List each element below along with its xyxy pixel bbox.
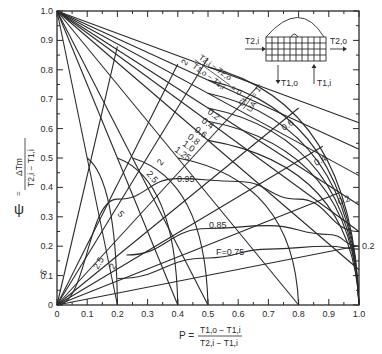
- x-tick-label: 0.4: [172, 309, 185, 319]
- y-axis-label: ψ = ΔTm T2,i − T1,i: [14, 138, 36, 217]
- cold-inlet-arrowhead: [312, 64, 317, 68]
- p-denominator: T2,i − T1,i: [200, 338, 238, 348]
- y-tick-label: 0.2: [40, 241, 53, 251]
- x-tick-label: 0: [54, 309, 59, 319]
- hot-inlet-label: T2,i: [245, 36, 259, 46]
- ct-label-0.2: 0.2: [362, 241, 375, 251]
- y-tick-label: 1.0: [40, 6, 53, 16]
- ct-label-0.4: 0.2: [336, 193, 351, 207]
- y-tick-label: 0.9: [40, 35, 53, 45]
- ct-ua-line: [57, 108, 299, 305]
- x-tick-label: 0.3: [141, 309, 154, 319]
- psi-symbol: ψ: [14, 201, 24, 217]
- psi-denominator: T2,i − T1,i: [26, 149, 36, 187]
- f-label-0.75: F=0.75: [216, 247, 244, 257]
- x-tick-label: 0.2: [111, 309, 124, 319]
- r-label-5: 5: [115, 209, 126, 219]
- p-numerator: T1,o − T1,i: [200, 325, 241, 335]
- curve-labels: 0.20.40.60.81.01.2522.55222.550.60.40.20…: [38, 58, 374, 277]
- x-axis-label: P = T1,o − T1,i T2,i − T1,i: [179, 325, 242, 348]
- x-tick-label: 0.6: [232, 309, 245, 319]
- y-tick-label: 0.5: [40, 153, 53, 163]
- f-label-0.85: 0.85: [209, 220, 227, 230]
- y-tick-label: 0.3: [40, 212, 53, 222]
- hot-outlet-label: T2,o: [330, 36, 347, 46]
- hot-inlet-arrowhead: [262, 47, 266, 52]
- cold-outlet-label: T1,o: [281, 78, 298, 88]
- y-tick-label: 0.6: [40, 124, 53, 134]
- inner-dome: [291, 34, 298, 37]
- cold-inlet-label: T1,i: [317, 78, 331, 88]
- cold-outlet-arrowhead: [276, 80, 281, 84]
- x-tick-label: 0.7: [262, 309, 275, 319]
- y-tick-label: 0.4: [40, 182, 53, 192]
- y-tick-label: 0.7: [40, 94, 53, 104]
- ct-label-2-top: 2: [179, 58, 190, 67]
- r-label-2: 2: [155, 157, 166, 167]
- heat-exchanger-inset: T2,i T2,o T1,o T1,i: [245, 18, 347, 89]
- x-tick-label: 0.1: [81, 309, 94, 319]
- ct-label-2.5: 2.5: [91, 255, 106, 271]
- ct-ua-line: [57, 193, 338, 305]
- hot-outlet-arrowhead: [343, 47, 347, 52]
- r-curve: [208, 121, 359, 305]
- y-tick-label: 0: [48, 300, 53, 310]
- x-tick-label: 0.8: [292, 309, 305, 319]
- correction-factor-chart: 00.10.20.30.40.50.60.70.80.91.000.10.20.…: [0, 0, 382, 354]
- f-curve: [57, 179, 359, 305]
- x-tick-label: 1.0: [353, 309, 366, 319]
- p-label: P =: [179, 330, 194, 341]
- tube-grid: [266, 37, 326, 61]
- ct-label-0.8: 0.6: [280, 117, 296, 132]
- x-tick-label: 0.9: [323, 309, 336, 319]
- psi-equals: =: [14, 191, 23, 196]
- x-tick-label: 0.5: [202, 309, 215, 319]
- y-tick-label: 0.8: [40, 65, 53, 75]
- ct-ua-line: [57, 85, 259, 306]
- psi-numerator: ΔTm: [14, 158, 24, 176]
- chart-container: 00.10.20.30.40.50.60.70.80.91.000.10.20.…: [0, 0, 382, 354]
- f-label-0.95: 0.95: [177, 174, 195, 184]
